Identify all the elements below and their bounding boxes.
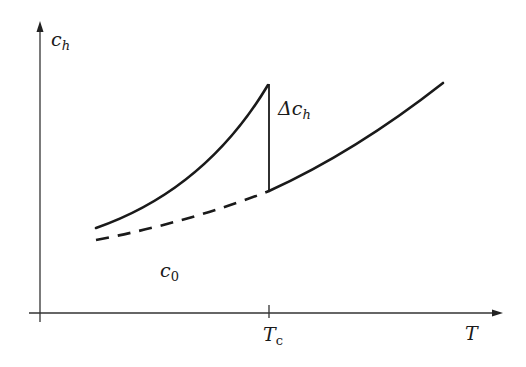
ch-curve-below-tc <box>96 85 268 228</box>
y-axis-arrow-icon <box>37 21 44 32</box>
tc-label: Tc <box>263 325 283 347</box>
c0-dashed-curve <box>96 191 269 240</box>
diagram-canvas <box>0 0 526 367</box>
c0-label: c0 <box>160 261 179 283</box>
x-axis-arrow-icon <box>492 310 503 317</box>
y-axis-label: ch <box>51 30 70 52</box>
x-axis-label: T <box>465 324 478 343</box>
delta-ch-label: Δch <box>278 99 311 121</box>
